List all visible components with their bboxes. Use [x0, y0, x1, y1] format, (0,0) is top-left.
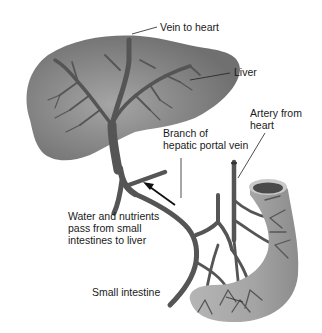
artery-cap	[231, 162, 237, 165]
small-intestine-shape	[190, 179, 299, 322]
branch-portal-vein-label: Branch of hepatic portal vein	[163, 127, 248, 151]
artery-from-heart-label: Artery from heart	[250, 107, 302, 131]
vein-to-heart-label: Vein to heart	[160, 21, 219, 33]
water-nutrients-label: Water and nutrients pass from small inte…	[68, 210, 159, 246]
hepatic-portal-diagram	[0, 0, 322, 333]
liver-label: Liver	[234, 66, 257, 78]
small-intestine-label: Small intestine	[92, 286, 160, 298]
